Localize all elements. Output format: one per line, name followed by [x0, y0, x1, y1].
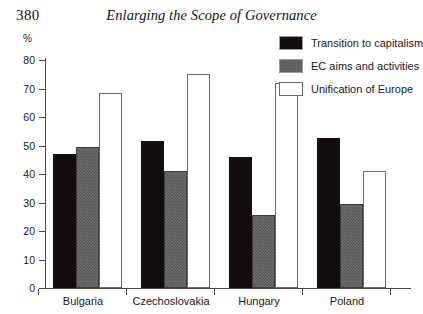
y-axis-tick-label: 70	[11, 84, 35, 95]
y-axis-tick	[39, 174, 45, 175]
y-axis-tick-label: 20	[11, 226, 35, 237]
bar-hungary-series-2	[275, 83, 298, 288]
y-axis-tick	[39, 203, 45, 204]
bar-poland-series-2	[363, 171, 386, 288]
bar-poland-series-0	[317, 138, 340, 288]
category-label-bulgaria: Bulgaria	[34, 295, 132, 307]
bar-bulgaria-series-2	[99, 93, 122, 288]
x-axis-line	[45, 288, 411, 289]
category-label-hungary: Hungary	[210, 295, 308, 307]
y-axis-tick-label: 0	[11, 283, 35, 294]
chart-page: 380 Enlarging the Scope of Governance % …	[0, 0, 423, 314]
y-axis-tick-label: 60	[11, 112, 35, 123]
bar-hungary-series-1	[252, 215, 275, 288]
legend-label: Transition to capitalism	[311, 34, 423, 52]
bar-poland-series-1	[340, 204, 363, 288]
bar-czechoslovakia-series-2	[187, 74, 210, 288]
y-axis-tick	[39, 60, 45, 61]
bar-bulgaria-series-0	[53, 154, 76, 288]
y-axis-tick-label: 10	[11, 255, 35, 266]
y-axis-tick-label: 30	[11, 198, 35, 209]
y-axis-tick-label: 40	[11, 169, 35, 180]
y-axis-tick	[39, 146, 45, 147]
bar-czechoslovakia-series-1	[164, 171, 187, 288]
y-axis-line	[45, 58, 46, 289]
y-axis-tick	[39, 231, 45, 232]
legend-label: EC aims and activities	[311, 57, 419, 75]
legend-swatch-icon	[279, 36, 303, 50]
bar-bulgaria-series-1	[76, 147, 99, 288]
y-axis-tick	[39, 117, 45, 118]
y-axis-tick	[39, 260, 45, 261]
legend-swatch-icon	[279, 82, 303, 96]
category-label-poland: Poland	[298, 295, 396, 307]
y-axis-tick-label: 80	[11, 55, 35, 66]
bar-czechoslovakia-series-0	[141, 141, 164, 288]
y-axis-tick	[39, 288, 45, 289]
bar-hungary-series-0	[229, 157, 252, 288]
category-label-czechoslovakia: Czechoslovakia	[122, 295, 220, 307]
y-axis-tick-label: 50	[11, 141, 35, 152]
legend-swatch-icon	[279, 59, 303, 73]
y-axis-tick	[39, 89, 45, 90]
legend-label: Unification of Europe	[311, 80, 413, 98]
